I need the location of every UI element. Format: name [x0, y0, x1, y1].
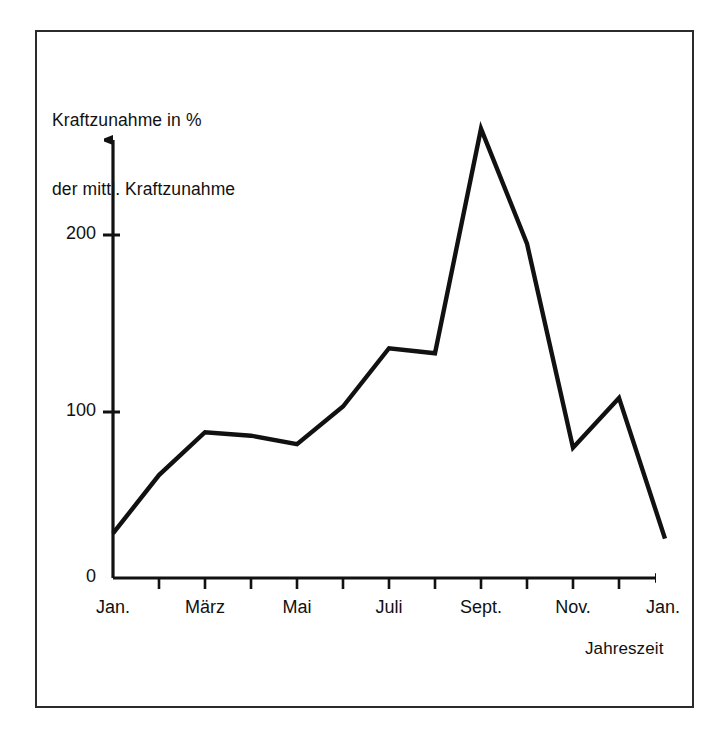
x-tick-label-jan-end: Jan. [646, 597, 680, 618]
y-axis-title: Kraftzunahme in % der mittl. Kraftzunahm… [52, 63, 235, 224]
y-axis-title-line2: der mittl. Kraftzunahme [52, 178, 235, 201]
x-axis [113, 578, 655, 589]
x-tick-label-maerz: März [185, 597, 225, 618]
y-tick-label-200: 200 [36, 223, 96, 244]
x-axis-ticks [159, 578, 619, 589]
x-axis-title: Jahreszeit [585, 637, 663, 660]
y-axis-title-line1: Kraftzunahme in % [52, 109, 235, 132]
x-tick-label-jan: Jan. [96, 597, 130, 618]
x-tick-label-mai: Mai [282, 597, 311, 618]
x-tick-label-sept: Sept. [460, 597, 502, 618]
y-tick-label-0: 0 [36, 566, 96, 587]
x-tick-label-juli: Juli [375, 597, 402, 618]
y-tick-label-100: 100 [36, 400, 96, 421]
x-tick-label-nov: Nov. [555, 597, 591, 618]
